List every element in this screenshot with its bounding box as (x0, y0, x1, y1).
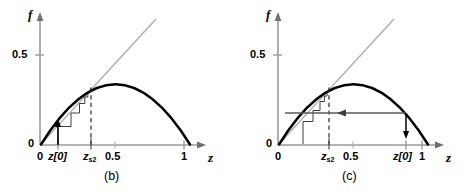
panel-c-x-tick-0: 0 (275, 151, 281, 162)
panel-b-x-tick-0: 0 (37, 151, 43, 162)
panel-b-zs2-label: zs2 (83, 151, 96, 163)
panel-b: f z 0.5 0 0 z[0] zs2 0.5 1 (b) (0, 0, 238, 192)
panel-c-y-tick-05: 0.5 (250, 49, 265, 60)
panel-c-zs2-sub: s2 (327, 156, 335, 163)
figure-root: f z 0.5 0 0 z[0] zs2 0.5 1 (b) (0, 0, 476, 192)
y-axis-b (35, 12, 44, 145)
panel-b-x-tick-05: 0.5 (105, 151, 120, 162)
cobweb-staircase-b (58, 88, 91, 144)
panel-c-z0-label: z[0] (393, 151, 412, 162)
cobweb-staircase-c (303, 89, 329, 144)
x-axis-b (40, 138, 206, 150)
panel-c-plot (238, 0, 476, 192)
panel-b-zs2-sub: s2 (89, 156, 97, 163)
panel-b-z0-label: z[0] (48, 151, 67, 162)
panel-b-y-axis-label: f (28, 8, 32, 21)
panel-c-y-tick-0: 0 (266, 138, 272, 149)
panel-b-y-tick-05: 0.5 (12, 49, 27, 60)
parabola-curve-b (41, 84, 190, 144)
panel-b-x-tick-1: 1 (181, 151, 187, 162)
panel-c-caption: (c) (342, 170, 357, 183)
panel-c-x-tick-05: 0.5 (343, 151, 358, 162)
panel-c-y-axis-label: f (266, 8, 270, 21)
panel-b-caption: (b) (104, 170, 119, 183)
panel-b-y-tick-0: 0 (28, 138, 34, 149)
panel-c: f z 0.5 0 0 zs2 0.5 z[0] 1 (c) (238, 0, 476, 192)
identity-line-c (279, 19, 394, 144)
panel-b-z0-text: z[0] (48, 150, 67, 162)
panel-b-x-axis-label: z (208, 151, 213, 164)
panel-c-x-axis-label: z (446, 151, 451, 164)
y-axis-c (273, 12, 282, 145)
panel-b-plot (0, 0, 238, 192)
panel-c-z0-text: z[0] (393, 150, 412, 162)
panel-c-x-tick-1: 1 (419, 151, 425, 162)
panel-c-zs2-label: zs2 (321, 151, 334, 163)
